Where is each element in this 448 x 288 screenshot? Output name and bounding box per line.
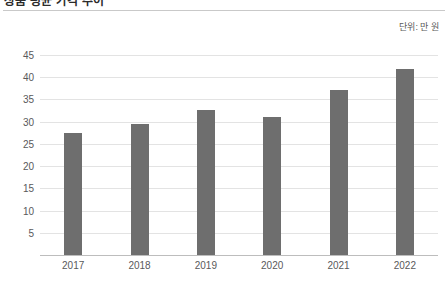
gridline	[40, 233, 438, 234]
document-title-cropped: 상품 평균 가격 추이	[0, 0, 448, 9]
x-axis-line	[40, 255, 438, 256]
bar	[330, 90, 348, 255]
y-axis-tick-label: 40	[4, 72, 34, 83]
gridline	[40, 188, 438, 189]
bar	[197, 110, 215, 255]
x-axis-tick-label: 2022	[394, 260, 416, 271]
y-axis-tick-label: 45	[4, 50, 34, 61]
gridline	[40, 77, 438, 78]
bar	[396, 69, 414, 255]
x-axis-tick-label: 2020	[261, 260, 283, 271]
gridline	[40, 211, 438, 212]
y-axis-tick-label: 5	[4, 228, 34, 239]
plot-area: 45403530252015105 2017201820192020202120…	[40, 46, 438, 256]
header-divider	[3, 10, 445, 11]
x-axis-tick-label: 2021	[327, 260, 349, 271]
y-axis-tick-label: 30	[4, 117, 34, 128]
y-axis-tick-label: 10	[4, 206, 34, 217]
gridline	[40, 99, 438, 100]
bar	[64, 133, 82, 255]
bar	[263, 117, 281, 255]
gridline	[40, 55, 438, 56]
gridline	[40, 122, 438, 123]
bar	[131, 124, 149, 255]
y-axis-tick-label: 15	[4, 183, 34, 194]
unit-label: 단위: 만 원	[399, 20, 439, 33]
y-axis-tick-label: 20	[4, 161, 34, 172]
x-axis-tick-label: 2018	[128, 260, 150, 271]
y-axis-tick-label: 35	[4, 94, 34, 105]
page-title: 상품 평균 가격 추이	[4, 0, 104, 8]
x-axis-tick-label: 2019	[195, 260, 217, 271]
gridline	[40, 144, 438, 145]
gridline	[40, 166, 438, 167]
x-axis-tick-label: 2017	[62, 260, 84, 271]
y-axis-tick-label: 25	[4, 139, 34, 150]
chart-screenshot: 상품 평균 가격 추이 단위: 만 원 45403530252015105 20…	[0, 0, 448, 288]
